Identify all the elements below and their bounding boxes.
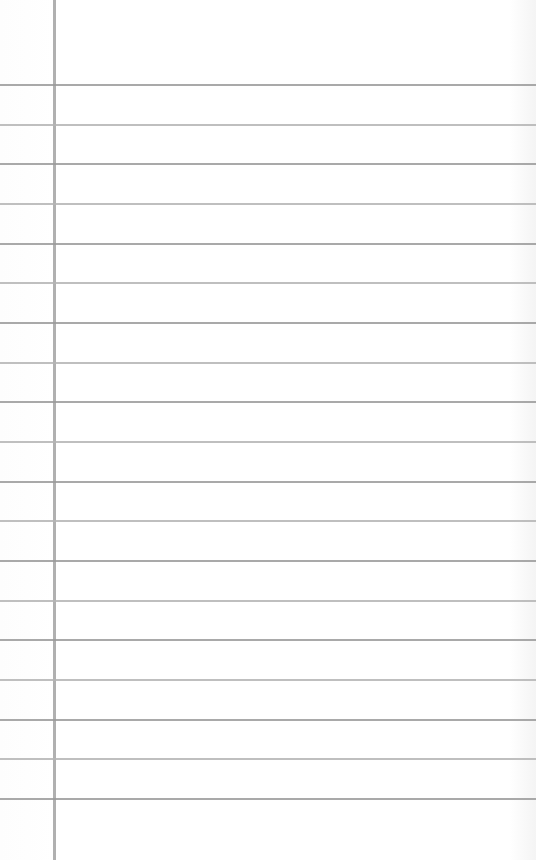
ruled-line (0, 84, 536, 86)
ruled-line (0, 798, 536, 800)
notebook-page (0, 0, 536, 860)
margin-line (53, 0, 56, 860)
ruled-line (0, 639, 536, 641)
ruled-line (0, 441, 536, 443)
ruled-line (0, 163, 536, 165)
ruled-line (0, 401, 536, 403)
ruled-line (0, 600, 536, 602)
ruled-line (0, 758, 536, 760)
ruled-line (0, 322, 536, 324)
ruled-line (0, 719, 536, 721)
ruled-line (0, 362, 536, 364)
ruled-line (0, 282, 536, 284)
ruled-line (0, 124, 536, 126)
ruled-line (0, 481, 536, 483)
ruled-line (0, 203, 536, 205)
ruled-line (0, 679, 536, 681)
ruled-line (0, 560, 536, 562)
ruled-line (0, 520, 536, 522)
ruled-line (0, 243, 536, 245)
